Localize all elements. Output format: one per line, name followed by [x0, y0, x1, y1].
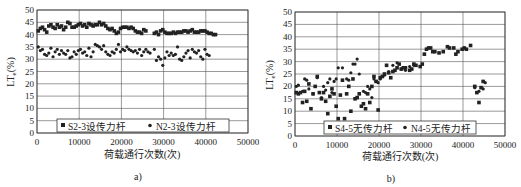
data-point — [429, 46, 433, 50]
data-point — [362, 102, 366, 106]
data-point — [456, 50, 460, 54]
legend-label-series-1: S4-5无传力杆 — [335, 123, 393, 134]
data-point — [148, 51, 151, 54]
y-tick-label: 30 — [25, 54, 35, 64]
svg-text:LTe(%): LTe(%) — [264, 60, 277, 89]
data-point — [400, 67, 403, 70]
data-point — [144, 48, 147, 51]
data-point — [357, 92, 361, 96]
data-point — [117, 43, 120, 46]
y-tick-label: 5 — [288, 119, 293, 129]
x-tick-label: 10000 — [326, 140, 349, 150]
y-tick-label: 35 — [25, 42, 35, 52]
x-tick-label: 20000 — [110, 137, 133, 147]
x-tick-label: 50000 — [494, 140, 517, 150]
data-point — [301, 101, 305, 105]
data-point — [448, 46, 452, 50]
data-point — [364, 107, 368, 111]
legend-square-marker-icon — [61, 123, 65, 127]
data-point — [125, 45, 128, 48]
x-tick-label: 0 — [35, 137, 40, 147]
data-point — [100, 48, 103, 51]
y-tick-label: 25 — [25, 67, 35, 77]
data-point — [316, 76, 319, 79]
data-point — [297, 84, 300, 87]
data-point — [201, 58, 204, 61]
data-point — [335, 77, 338, 80]
data-point — [136, 51, 139, 54]
data-point — [45, 30, 49, 34]
legend-circle-marker-icon — [148, 124, 152, 128]
data-point — [347, 79, 350, 82]
svg-text:LTe(%): LTe(%) — [5, 57, 18, 86]
data-point — [353, 62, 356, 65]
data-point — [60, 24, 64, 28]
data-point — [391, 64, 394, 67]
y-tick-label: 25 — [283, 69, 293, 79]
data-point — [115, 48, 118, 51]
x-tick-label: 30000 — [152, 137, 175, 147]
y-tick-label: 35 — [283, 44, 293, 54]
chart-b: 0510152025303540455001000020000300004000… — [260, 0, 521, 187]
data-point — [165, 50, 168, 53]
data-point — [328, 77, 331, 80]
chart-a-series — [36, 21, 217, 67]
y-axis-label: LTe(%) — [264, 60, 277, 89]
data-point — [305, 99, 309, 103]
data-point — [368, 87, 371, 90]
legend-label-series-1: S2-3设传力杆 — [68, 121, 126, 132]
data-point — [167, 54, 170, 57]
data-point — [351, 77, 355, 81]
data-point — [482, 87, 485, 90]
chart-b-legend: S4-5无传力杆 N4-5无传力杆 — [324, 121, 476, 134]
x-tick-label: 40000 — [452, 140, 475, 150]
data-point — [142, 50, 145, 53]
data-point — [180, 59, 183, 62]
data-point — [117, 30, 121, 34]
chart-a-legend: S2-3设传力杆 N2-3设传力杆 — [57, 119, 229, 132]
data-point — [199, 55, 202, 58]
data-point — [54, 50, 57, 53]
x-tick-label: 30000 — [410, 140, 433, 150]
data-point — [437, 51, 441, 55]
x-tick-label: 20000 — [368, 140, 391, 150]
data-point — [328, 95, 332, 99]
data-point — [412, 64, 415, 67]
data-point — [324, 99, 328, 103]
data-point — [47, 51, 50, 54]
data-point — [98, 45, 101, 48]
data-point — [347, 85, 351, 89]
y-tick-label: 50 — [283, 7, 293, 17]
data-point — [119, 50, 122, 53]
data-point — [330, 91, 333, 94]
data-point — [83, 50, 86, 53]
data-point — [113, 51, 116, 54]
data-point — [320, 96, 323, 99]
data-point — [89, 55, 92, 58]
data-point — [307, 87, 310, 90]
data-point — [92, 50, 95, 53]
data-point — [184, 51, 187, 54]
data-point — [123, 49, 126, 52]
data-point — [174, 53, 177, 56]
data-point — [189, 56, 192, 59]
x-tick-label: 0 — [293, 140, 298, 150]
data-point — [330, 87, 334, 91]
data-point — [334, 104, 338, 108]
y-tick-label: 40 — [25, 30, 35, 40]
data-point — [64, 53, 67, 56]
data-point — [176, 45, 179, 48]
data-point — [73, 50, 76, 53]
data-point — [313, 85, 317, 89]
y-tick-label: 10 — [25, 103, 35, 113]
data-point — [387, 70, 390, 73]
chart-a: 0510152025303540455001000020000300004000… — [0, 0, 260, 187]
data-point — [104, 50, 107, 53]
data-point — [157, 33, 161, 37]
data-point — [305, 79, 308, 82]
x-axis-label: 荷载通行次数(次) — [104, 148, 181, 161]
data-point — [326, 112, 330, 116]
data-point — [309, 107, 313, 111]
data-point — [157, 55, 160, 58]
data-point — [311, 92, 314, 95]
